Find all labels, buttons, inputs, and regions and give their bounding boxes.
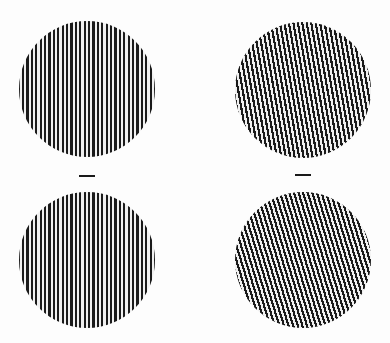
stripes: [19, 192, 155, 328]
stripes: [19, 21, 155, 157]
grating-top-left: [19, 21, 155, 157]
grating-top-right: [235, 22, 371, 158]
stripes: [235, 22, 371, 158]
stripes: [235, 192, 371, 328]
grating-bottom-right: [235, 192, 371, 328]
grating-bottom-left: [19, 192, 155, 328]
fixation-mark-right: [295, 174, 311, 176]
fixation-mark-left: [79, 175, 95, 177]
